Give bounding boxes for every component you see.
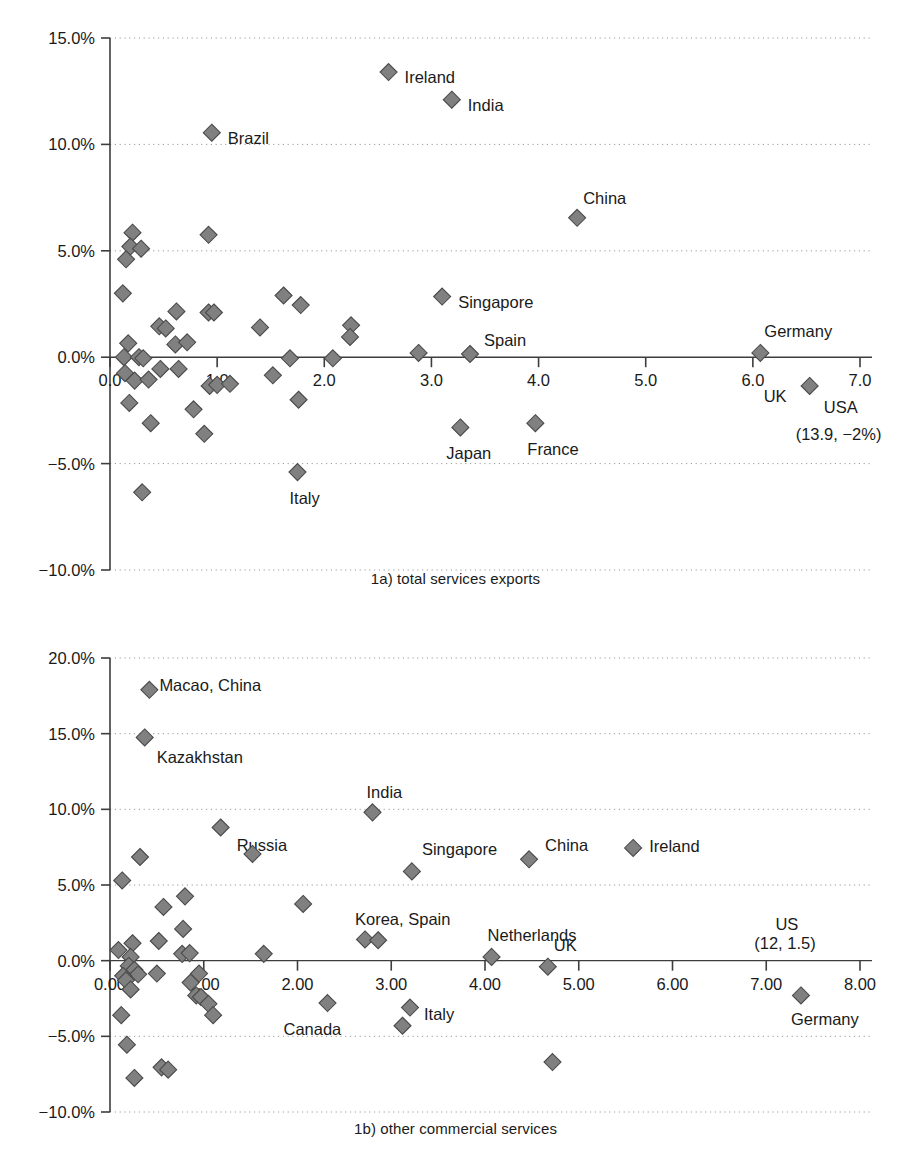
y-tick-label: −5.0% (48, 1027, 96, 1045)
data-point-marker (140, 371, 157, 388)
data-point-label: Italy (290, 489, 321, 507)
x-tick-label: 3.00 (375, 975, 407, 993)
data-point-marker (126, 1069, 143, 1086)
data-point-marker (443, 91, 460, 108)
data-point-marker (170, 360, 187, 377)
scatter-plot-1a: 15.0%10.0%5.0%0.0%−5.0%−10.0%0.01.02.03.… (0, 0, 911, 600)
data-point-label: Japan (446, 444, 491, 462)
chart-annotation: (12, 1.5) (754, 934, 815, 952)
y-tick-label: 5.0% (57, 242, 95, 260)
data-point-marker (394, 1017, 411, 1034)
data-point-marker (282, 350, 299, 367)
y-tick-label: 20.0% (48, 649, 95, 667)
data-point-label: Germany (791, 1010, 860, 1028)
data-point-marker (177, 888, 194, 905)
data-point-marker (114, 285, 131, 302)
data-point-marker (141, 681, 158, 698)
data-point-label: Macao, China (159, 676, 262, 694)
chart-panel-total-services-exports: 15.0%10.0%5.0%0.0%−5.0%−10.0%0.01.02.03.… (0, 0, 911, 600)
data-point-marker (255, 945, 272, 962)
data-point-marker (152, 360, 169, 377)
data-point-marker (275, 287, 292, 304)
x-tick-label: 6.0 (741, 371, 764, 389)
y-tick-label: 0.0% (57, 952, 95, 970)
data-point-marker (118, 1036, 135, 1053)
data-point-label: Germany (764, 322, 833, 340)
data-point-marker (212, 819, 229, 836)
data-point-marker (544, 1054, 561, 1071)
data-point-marker (179, 334, 196, 351)
data-point-marker (120, 335, 137, 352)
figure-container: 15.0%10.0%5.0%0.0%−5.0%−10.0%0.01.02.03.… (0, 0, 911, 1175)
data-point-label: Russia (237, 836, 288, 854)
y-tick-label: 10.0% (48, 800, 95, 818)
data-point-marker (402, 999, 419, 1016)
x-tick-label: 7.0 (849, 371, 872, 389)
data-point-marker (292, 297, 309, 314)
chart-caption-1b: 1b) other commercial services (0, 1120, 911, 1137)
data-point-label: Kazakhstan (157, 748, 243, 766)
data-point-marker (792, 987, 809, 1004)
data-point-marker (114, 872, 131, 889)
data-point-label: Singapore (422, 840, 497, 858)
x-tick-label: 2.00 (281, 975, 313, 993)
y-tick-label: 15.0% (48, 725, 95, 743)
data-point-label: Brazil (228, 129, 269, 147)
data-point-marker (752, 344, 769, 361)
data-point-label: Korea, Spain (355, 910, 450, 928)
x-tick-label: 2.0 (313, 371, 336, 389)
data-point-label: UK (554, 936, 577, 954)
chart-caption-1a: 1a) total services exports (0, 570, 911, 587)
data-point-marker (155, 898, 172, 915)
x-tick-label: 4.0 (527, 371, 550, 389)
data-point-label: China (545, 836, 589, 854)
y-tick-label: −5.0% (48, 455, 96, 473)
data-point-marker (801, 377, 818, 394)
data-point-label: India (367, 783, 404, 801)
data-point-marker (434, 288, 451, 305)
chart-panel-other-commercial-services: 20.0%15.0%10.0%5.0%0.0%−5.0%−10.0%0.001.… (0, 600, 911, 1175)
scatter-plot-1b: 20.0%15.0%10.0%5.0%0.0%−5.0%−10.0%0.001.… (0, 600, 911, 1175)
x-tick-label: 8.00 (844, 975, 876, 993)
data-point-marker (324, 350, 341, 367)
y-tick-label: 10.0% (48, 135, 95, 153)
data-point-marker (136, 729, 153, 746)
data-point-marker (132, 849, 149, 866)
data-point-label: Spain (484, 331, 526, 349)
data-point-marker (410, 344, 427, 361)
chart-annotation: USA (824, 398, 858, 416)
data-point-marker (289, 464, 306, 481)
data-point-marker (150, 932, 167, 949)
chart-annotation: US (775, 915, 798, 933)
y-tick-label: 0.0% (57, 348, 95, 366)
data-point-marker (124, 224, 141, 241)
data-point-marker (380, 64, 397, 81)
x-tick-label: 5.00 (563, 975, 595, 993)
data-point-marker (521, 851, 538, 868)
data-point-marker (319, 995, 336, 1012)
x-tick-label: 5.0 (634, 371, 657, 389)
data-point-marker (264, 367, 281, 384)
chart-annotation: (13.9, −2%) (796, 425, 882, 443)
x-tick-label: 3.0 (420, 371, 443, 389)
data-point-marker (148, 965, 165, 982)
data-point-marker (403, 863, 420, 880)
data-point-label: Canada (284, 1020, 343, 1038)
data-point-marker (113, 1007, 130, 1024)
data-point-marker (121, 394, 138, 411)
data-point-marker (134, 484, 151, 501)
data-point-label: China (583, 189, 627, 207)
y-tick-label: −10.0% (39, 1103, 96, 1121)
data-point-label: Singapore (458, 293, 533, 311)
data-point-label: Ireland (405, 68, 455, 86)
data-point-marker (370, 932, 387, 949)
y-tick-label: 5.0% (57, 876, 95, 894)
data-point-label: France (527, 440, 578, 458)
data-point-marker (462, 346, 479, 363)
data-point-marker (142, 415, 159, 432)
data-point-marker (290, 391, 307, 408)
y-tick-label: 15.0% (48, 29, 95, 47)
data-point-marker (252, 319, 269, 336)
data-point-label: UK (764, 387, 787, 405)
x-tick-label: 4.00 (469, 975, 501, 993)
